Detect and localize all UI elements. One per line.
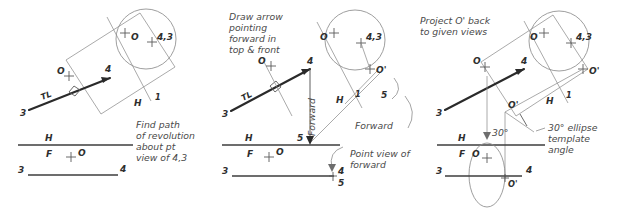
p3-label-fold-1: 1 xyxy=(566,90,572,100)
p2-pointview-note-1: forward xyxy=(350,159,386,170)
p3-note-line-0: Project O' back xyxy=(420,15,491,26)
p3-label-3: 3 xyxy=(436,108,442,118)
p2-label-aux-5: 5 xyxy=(381,90,387,100)
p3-note-line-1: to given views xyxy=(420,26,487,37)
p1-note-line-3: view of 4,3 xyxy=(136,152,187,163)
p1-label-front-h: H xyxy=(45,133,53,143)
p1-note-line-2: about pt xyxy=(136,141,176,152)
p2-label-bottom-4: 4 xyxy=(337,166,344,176)
p1-label-front-f: F xyxy=(46,149,53,159)
p3-angle-30-ray xyxy=(505,112,534,132)
p3-label-o-top: O xyxy=(530,32,538,42)
drawing-canvas: O O 4,3 3 4 TL H 1 H F O 3 4 Find path o… xyxy=(0,0,621,213)
p2-forward-vertical-label: Forward xyxy=(306,98,317,136)
p1-label-fold-1: 1 xyxy=(155,92,161,102)
p3-template-leader xyxy=(536,128,545,131)
p2-label-front-o: O xyxy=(276,147,284,157)
p2-label-o-prime: O' xyxy=(376,65,386,75)
p3-template-note-0: 30° ellipse xyxy=(548,122,598,133)
p3-label-bottom-4: 4 xyxy=(525,165,532,175)
p3-point-43-cross xyxy=(566,38,576,48)
p3-label-43: 4,3 xyxy=(575,32,592,42)
p2-label-front-5: 5 xyxy=(297,133,303,143)
p3-label-front-o-prime: O' xyxy=(508,179,517,189)
p1-note-line-0: Find path xyxy=(136,119,180,130)
p3-label-bottom-3: 3 xyxy=(436,166,442,176)
p3-point-o-top-cross xyxy=(539,28,549,38)
panel-3-group: Project O' back to given views O O 4,3 O… xyxy=(420,11,599,207)
p3-label-4: 4 xyxy=(520,56,527,66)
p1-point-o-top-cross xyxy=(120,28,130,38)
p2-label-fold-1: 1 xyxy=(355,89,361,99)
p2-leader-curve-5 xyxy=(392,78,399,99)
p2-label-3: 3 xyxy=(222,109,228,119)
p2-leader-arrowhead-pointview xyxy=(328,164,336,172)
p1-label-bottom-3: 3 xyxy=(18,165,24,175)
p3-front-o-cross xyxy=(482,153,492,163)
p1-label-bottom-4: 4 xyxy=(119,164,126,174)
p1-note-line-1: of revolution xyxy=(136,130,195,141)
p1-label-tl: TL xyxy=(39,89,53,102)
p2-radius-43-to-oprime xyxy=(361,43,370,69)
p3-template-note-1: template xyxy=(548,133,590,144)
p2-label-43: 4,3 xyxy=(365,32,382,42)
p3-label-o-left: O xyxy=(473,56,481,66)
p3-label-front-h: H xyxy=(458,133,466,143)
p3-angle-30-tick xyxy=(520,114,527,126)
panel-1-group: O O 4,3 3 4 TL H 1 H F O 3 4 Find path o… xyxy=(18,9,195,175)
p3-aux-band xyxy=(481,15,588,116)
p2-label-4: 4 xyxy=(306,56,313,66)
p1-label-o-top: O xyxy=(131,32,139,42)
p2-forward-diagonal-label: Forward xyxy=(355,120,393,131)
p1-point-o-left-cross xyxy=(64,71,74,81)
p3-label-o-prime-circle: O' xyxy=(589,66,599,76)
p3-label-o-prime-top: O' xyxy=(508,100,518,110)
p3-label-fold-h: H xyxy=(546,96,554,106)
p2-note-line-3: top & front xyxy=(229,44,280,55)
p2-label-bottom-3: 3 xyxy=(222,166,228,176)
p1-front-o-cross xyxy=(66,152,76,162)
p1-label-4: 4 xyxy=(104,64,111,74)
p1-label-front-o: O xyxy=(78,148,86,158)
p2-point-o-top-cross xyxy=(329,28,339,38)
p2-forward-band xyxy=(310,73,380,143)
p1-point-43-cross xyxy=(147,37,157,47)
p3-template-note-2: angle xyxy=(548,144,574,155)
p3-label-angle-30: 30° xyxy=(492,127,508,138)
p2-label-o-left: O xyxy=(258,56,266,66)
p3-projector-o-arrowhead xyxy=(483,132,491,140)
p2-forward-band-2 xyxy=(345,71,377,104)
p2-note-line-1: pointing xyxy=(228,22,267,33)
p1-label-o-left: O xyxy=(57,66,65,76)
p2-label-front-h: H xyxy=(245,133,253,143)
p2-label-o-top: O xyxy=(320,32,328,42)
p2-pointview-note-0: Point view of xyxy=(350,148,411,159)
p2-perpendicular-through-o xyxy=(264,62,292,116)
p2-note-line-0: Draw arrow xyxy=(229,11,283,22)
panel-2-group: Draw arrow pointing forward in top & fro… xyxy=(222,10,411,188)
p2-front-o-cross xyxy=(264,152,274,162)
p1-label-43: 4,3 xyxy=(156,32,173,42)
p2-note-line-2: forward in xyxy=(229,33,276,44)
p2-label-front-f: F xyxy=(247,149,254,159)
p2-label-fold-h: H xyxy=(336,95,344,105)
p1-fold-line-h1 xyxy=(107,17,151,101)
p3-label-front-o: O xyxy=(472,149,480,159)
p2-label-bottom-5: 5 xyxy=(338,178,344,188)
p3-label-front-f: F xyxy=(459,149,466,159)
p1-label-3: 3 xyxy=(20,108,26,118)
p2-p3-bridge-arc xyxy=(405,96,412,128)
engineering-sketch-svg: O O 4,3 3 4 TL H 1 H F O 3 4 Find path o… xyxy=(0,0,621,213)
p1-label-fold-h: H xyxy=(134,98,142,108)
p3-point-o-left-cross xyxy=(480,62,490,72)
